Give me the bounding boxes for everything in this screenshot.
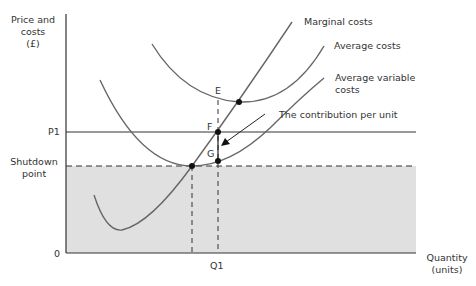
shutdown-shaded-area (66, 166, 416, 253)
shutdown-point-label: Shutdown point (6, 156, 62, 180)
p1-tick-label: P1 (48, 126, 60, 138)
avc-label-line1: Average variable (335, 72, 415, 84)
avc-label-line2: costs (335, 84, 415, 96)
arrow-head-icon (221, 138, 230, 146)
cost-curves-diagram: Price and costs (£) P1 Shutdown point 0 … (0, 0, 476, 286)
shutdown-label-line2: point (6, 168, 62, 180)
point-g-label: G (207, 148, 214, 160)
point-f-label: F (207, 121, 212, 133)
q1-tick-label: Q1 (210, 260, 224, 272)
point-ac-min (236, 99, 242, 105)
average-cost-curve (152, 44, 324, 102)
y-axis-label-line3: (£) (8, 38, 58, 50)
y-axis-label: Price and costs (£) (8, 14, 58, 50)
shutdown-label-line1: Shutdown (6, 156, 62, 168)
average-costs-label: Average costs (334, 40, 401, 52)
marginal-costs-label: Marginal costs (304, 16, 373, 28)
point-g (215, 158, 221, 164)
x-axis-label-line1: Quantity (422, 252, 472, 264)
x-axis-label-line2: (units) (422, 264, 472, 276)
x-axis-label: Quantity (units) (422, 252, 472, 276)
point-shutdown (189, 163, 195, 169)
diagram-canvas (0, 0, 476, 286)
point-f (215, 129, 221, 135)
origin-label: 0 (54, 248, 60, 260)
y-axis-label-line2: costs (8, 26, 58, 38)
y-axis-label-line1: Price and (8, 14, 58, 26)
contribution-per-unit-label: The contribution per unit (279, 109, 398, 121)
point-e-label: E (215, 85, 221, 97)
average-variable-costs-label: Average variable costs (335, 72, 415, 96)
